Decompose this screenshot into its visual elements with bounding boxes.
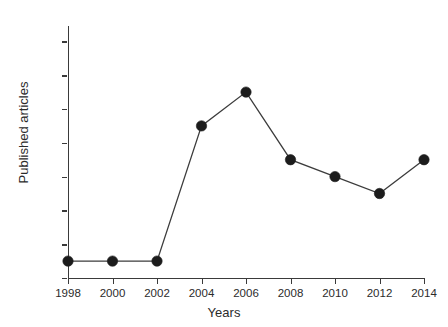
series-plot [0, 0, 448, 327]
series-markers [63, 87, 429, 266]
data-point-2014 [419, 155, 429, 165]
data-point-2000 [107, 256, 117, 266]
data-point-2002 [152, 256, 162, 266]
chart-figure: 02468101214 1998200020022004200620082010… [0, 0, 448, 327]
data-point-2004 [196, 121, 206, 131]
series-line-published-articles [68, 92, 424, 261]
data-point-2008 [285, 155, 295, 165]
data-point-2010 [330, 171, 340, 181]
data-point-2006 [241, 87, 251, 97]
data-point-1998 [63, 256, 73, 266]
x-axis-title: Years [0, 305, 448, 320]
data-point-2012 [374, 188, 384, 198]
y-axis-title: Published articles [16, 38, 31, 228]
